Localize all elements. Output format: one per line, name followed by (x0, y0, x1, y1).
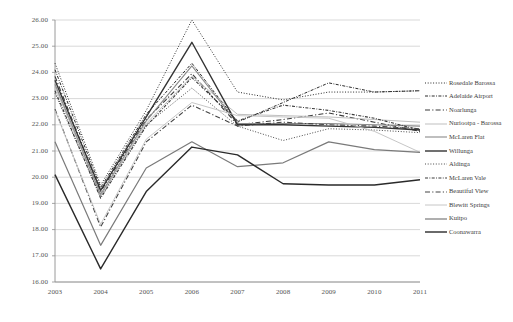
legend-item-label: Willunga (449, 148, 473, 155)
legend-item-label: Blewitt Springs (449, 202, 490, 209)
legend-item-label: McLaren Flat (449, 134, 485, 141)
legend-item-7[interactable]: McLaren Vale (425, 171, 513, 185)
legend-line-swatch (425, 91, 447, 101)
legend-line-swatch (425, 119, 447, 129)
legend-line-swatch (425, 227, 447, 237)
legend-line-swatch (425, 173, 447, 183)
legend-line-swatch (425, 214, 447, 224)
legend-line-swatch (425, 105, 447, 115)
legend-item-label: Beautiful View (449, 188, 488, 195)
legend-item-label: Rosedale Barossa (449, 80, 495, 87)
x-tick-label: 2004 (81, 288, 121, 296)
x-tick-label: 2011 (400, 288, 440, 296)
legend-line-swatch (425, 146, 447, 156)
legend-line-swatch (425, 200, 447, 210)
legend-item-10[interactable]: Kuitpo (425, 212, 513, 226)
legend-item-label: McLaren Vale (449, 175, 486, 182)
y-tick-label: 20.00 (14, 173, 48, 181)
legend-item-6[interactable]: Aldinga (425, 158, 513, 172)
legend-line-swatch (425, 78, 447, 88)
x-tick-label: 2009 (309, 288, 349, 296)
legend-item-label: Adelaide Airport (449, 93, 493, 100)
legend-item-9[interactable]: Blewitt Springs (425, 198, 513, 212)
legend-item-8[interactable]: Beautiful View (425, 185, 513, 199)
legend-item-0[interactable]: Rosedale Barossa (425, 76, 513, 90)
legend-item-2[interactable]: Noarlunga (425, 103, 513, 117)
y-tick-label: 26.00 (14, 16, 48, 24)
y-tick-label: 23.00 (14, 94, 48, 102)
legend-item-label: Coonawarra (449, 229, 481, 236)
x-tick-label: 2005 (126, 288, 166, 296)
legend-item-label: Noarlunga (449, 107, 476, 114)
x-tick-label: 2007 (218, 288, 258, 296)
x-tick-label: 2006 (172, 288, 212, 296)
x-tick-label: 2008 (263, 288, 303, 296)
legend-item-label: Aldinga (449, 161, 470, 168)
legend-line-swatch (425, 132, 447, 142)
chart-legend: Rosedale BarossaAdelaide AirportNoarlung… (425, 76, 513, 239)
legend-item-3[interactable]: Nuriootpa - Barossa (425, 117, 513, 131)
y-tick-label: 17.00 (14, 251, 48, 259)
y-tick-label: 21.00 (14, 147, 48, 155)
y-tick-label: 22.00 (14, 120, 48, 128)
y-tick-label: 25.00 (14, 42, 48, 50)
series-line-0 (55, 20, 420, 185)
legend-item-5[interactable]: Willunga (425, 144, 513, 158)
line-chart: 26.0025.0024.0023.0022.0021.0020.0019.00… (0, 0, 513, 322)
legend-item-1[interactable]: Adelaide Airport (425, 90, 513, 104)
legend-line-swatch (425, 187, 447, 197)
legend-item-label: Kuitpo (449, 215, 467, 222)
x-tick-label: 2003 (35, 288, 75, 296)
legend-item-label: Nuriootpa - Barossa (449, 120, 501, 127)
y-tick-label: 19.00 (14, 199, 48, 207)
series-line-9 (55, 103, 420, 225)
y-tick-label: 24.00 (14, 68, 48, 76)
y-tick-label: 18.00 (14, 225, 48, 233)
y-tick-label: 16.00 (14, 278, 48, 286)
legend-item-4[interactable]: McLaren Flat (425, 130, 513, 144)
legend-item-11[interactable]: Coonawarra (425, 226, 513, 240)
x-tick-label: 2010 (354, 288, 394, 296)
legend-line-swatch (425, 159, 447, 169)
